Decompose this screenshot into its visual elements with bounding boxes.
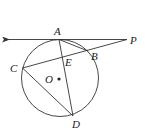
label-c: C <box>10 62 18 74</box>
label-b: B <box>91 50 98 62</box>
label-a: A <box>53 25 61 37</box>
label-d: D <box>71 118 80 130</box>
secant-pc <box>23 40 128 69</box>
chord-ab <box>59 40 88 52</box>
center-point-o <box>57 77 60 80</box>
geometry-diagram: A B C D E O P <box>0 0 145 140</box>
label-p: P <box>129 34 137 46</box>
label-o: O <box>45 73 53 85</box>
label-e: E <box>64 56 72 68</box>
